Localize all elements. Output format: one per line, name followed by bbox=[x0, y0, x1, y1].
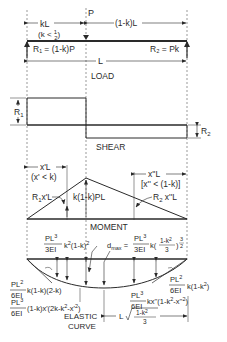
svg-text:3: 3 bbox=[180, 236, 183, 242]
svg-text:k(1-k2): k(1-k2) bbox=[187, 281, 210, 291]
reaction-left-label: R₁ = (1-k)P bbox=[33, 44, 75, 54]
shear-r2-label: R2 bbox=[201, 126, 211, 137]
svg-text:PL3: PL3 bbox=[134, 233, 146, 243]
span-left-label: kL bbox=[40, 19, 50, 29]
svg-text:1-k2: 1-k2 bbox=[160, 236, 172, 244]
shear-title: SHEAR bbox=[96, 142, 125, 152]
load-title: LOAD bbox=[91, 71, 114, 81]
deflection-diagram: PL3 3EI k2(1-k)2 dmax = PL3 3EI k( 1-k2 … bbox=[10, 233, 210, 331]
svg-text:k(: k( bbox=[150, 241, 157, 250]
left-moment-label: R1x'L bbox=[32, 192, 52, 203]
beam-diagram: kL (k < 12) P (1-k)L R₁ = (1-k)P R₂ = Pk… bbox=[0, 0, 227, 342]
dmax-location-label: L bbox=[119, 312, 124, 321]
moment-right-condition: [x'' < (1-k)] bbox=[141, 179, 180, 189]
span-left-condition: (k < 12) bbox=[38, 29, 60, 41]
moment-title: MOMENT bbox=[90, 222, 128, 232]
left-deflection-label: PL3 bbox=[11, 297, 23, 307]
elastic-title-line2: CURVE bbox=[68, 322, 96, 331]
svg-text:k(1-k)(2-k): k(1-k)(2-k) bbox=[27, 286, 62, 295]
total-span-label: L bbox=[98, 56, 103, 66]
svg-text:3: 3 bbox=[165, 246, 169, 253]
svg-text:3EI: 3EI bbox=[134, 245, 145, 254]
elastic-curve bbox=[27, 259, 187, 288]
svg-text:k2(1-k)2: k2(1-k)2 bbox=[64, 240, 89, 250]
moment-right-dim: x''L bbox=[148, 169, 160, 179]
span-right-label: (1-k)L bbox=[115, 18, 137, 28]
svg-text:3EI: 3EI bbox=[45, 245, 56, 254]
point-load-arrow-icon bbox=[83, 35, 89, 40]
load-diagram: kL (k < 12) P (1-k)L R₁ = (1-k)P R₂ = Pk… bbox=[24, 8, 190, 81]
svg-text:6EI: 6EI bbox=[11, 309, 22, 318]
svg-text:3: 3 bbox=[143, 318, 147, 325]
left-slope-label: PL2 bbox=[11, 279, 23, 289]
elastic-title-line1: ELASTIC bbox=[64, 312, 98, 321]
svg-text:1-k2: 1-k2 bbox=[136, 308, 148, 316]
svg-text:6EI: 6EI bbox=[170, 286, 181, 295]
shear-diagram: R1 R2 SHEAR bbox=[10, 98, 211, 152]
shear-r1-label: R1 bbox=[14, 107, 24, 118]
svg-text:kx''(1-k2-x''2): kx''(1-k2-x''2) bbox=[147, 296, 189, 306]
load-point-deflection-label: PL3 bbox=[45, 233, 57, 243]
dmax-label: dmax = bbox=[107, 241, 129, 251]
moment-left-condition: (x' < k) bbox=[31, 172, 57, 182]
right-deflection-label: PL3 bbox=[131, 290, 143, 300]
load-p-label: P bbox=[88, 8, 94, 18]
moment-diagram: x'L (x' < k) x''L [x'' < (1-k)] k(1-k)PL… bbox=[27, 162, 187, 232]
svg-text:): ) bbox=[176, 241, 179, 250]
svg-text:2: 2 bbox=[180, 243, 183, 249]
right-slope-label: PL2 bbox=[170, 274, 182, 284]
reaction-right-label: R₂ = Pk bbox=[150, 44, 180, 54]
max-moment-label: k(1-k)PL bbox=[73, 192, 105, 202]
moment-left-dim: x'L bbox=[40, 162, 51, 172]
right-moment-label: R2 x''L bbox=[153, 192, 177, 203]
